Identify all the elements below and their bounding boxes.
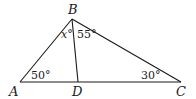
vertex-label-b: B (67, 2, 78, 17)
angle-label-abd: x° (61, 28, 73, 41)
angle-label-c: 30° (141, 69, 161, 82)
triangle-diagram: B A D C 50° 30° x° 55° (0, 0, 196, 99)
vertex-label-d: D (71, 84, 83, 99)
vertex-label-c: C (176, 84, 186, 99)
angle-label-dbc: 55° (77, 28, 97, 41)
vertex-label-a: A (8, 84, 18, 99)
angle-label-a: 50° (31, 69, 51, 82)
